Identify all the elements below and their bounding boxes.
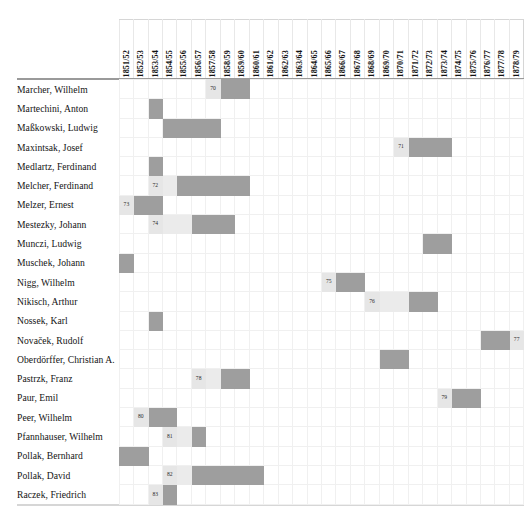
table-row[interactable]: Pollak, David82 [17,465,524,484]
empty-cell [336,311,350,330]
empty-cell [322,80,336,99]
empty-cell [481,80,495,99]
table-row[interactable]: Oberdörffer, Christian A. [17,350,524,369]
empty-cell [509,80,523,99]
empty-cell [119,427,133,446]
empty-cell [293,292,307,311]
empty-cell [466,99,480,118]
empty-cell [293,99,307,118]
empty-cell [350,311,364,330]
empty-cell [379,446,393,465]
empty-cell [466,80,480,99]
empty-cell [249,195,263,214]
empty-cell [119,485,133,504]
empty-cell [481,195,495,214]
empty-cell [264,215,278,234]
table-row[interactable]: Novaček, Rudolf77 [17,330,524,349]
empty-cell [481,253,495,272]
empty-cell [365,195,379,214]
empty-cell [322,118,336,137]
active-cell [163,408,177,427]
active-cell [148,157,162,176]
year-header-1853-54: 1853/54 [148,20,162,79]
year-header-1865-66: 1865/66 [322,20,336,79]
empty-cell [394,408,408,427]
table-row[interactable]: Nossek, Karl [17,311,524,330]
table-row[interactable]: Maßkowski, Ludwig [17,118,524,137]
active-cell [191,118,205,137]
empty-cell [322,195,336,214]
empty-cell [307,80,321,99]
active-cell [249,465,263,484]
empty-cell [235,446,249,465]
empty-cell [466,427,480,446]
table-row[interactable]: Muschek, Johann [17,253,524,272]
empty-cell [394,99,408,118]
empty-cell [481,408,495,427]
empty-cell [379,311,393,330]
empty-cell [336,215,350,234]
table-row[interactable]: Pfannhauser, Wilhelm81 [17,427,524,446]
year-header-label: 1864/65 [308,47,321,78]
empty-cell [336,195,350,214]
table-row[interactable]: Nikisch, Arthur76 [17,292,524,311]
table-row[interactable]: Pastrzk, Franz78 [17,369,524,388]
table-row[interactable]: Paur, Emil79 [17,388,524,407]
empty-cell [379,99,393,118]
empty-cell [408,350,422,369]
empty-cell [437,311,451,330]
year-header-1866-67: 1866/67 [336,20,350,79]
empty-cell [307,99,321,118]
empty-cell [509,427,523,446]
active-cell [119,253,133,272]
active-cell [423,137,437,156]
table-row[interactable]: Melcher, Ferdinand72 [17,176,524,195]
table-row[interactable]: Nigg, Wilhelm75 [17,272,524,291]
table-row[interactable]: Mestezky, Johann74 [17,215,524,234]
empty-cell [394,157,408,176]
empty-cell [278,215,292,234]
row-label: Munczi, Ludwig [17,234,119,253]
year-header-1858-59: 1858/59 [220,20,234,79]
active-cell [495,330,509,349]
empty-cell [249,292,263,311]
active-cell [206,118,220,137]
empty-cell [322,176,336,195]
empty-cell [163,137,177,156]
empty-cell [206,408,220,427]
empty-cell [394,80,408,99]
year-header-1869-70: 1869/70 [379,20,393,79]
row-label: Nigg, Wilhelm [17,272,119,291]
empty-cell [134,388,148,407]
empty-cell [249,253,263,272]
table-row[interactable]: Medlartz, Ferdinand [17,157,524,176]
active-cell [481,330,495,349]
empty-cell [322,137,336,156]
table-row[interactable]: Martechini, Anton [17,99,524,118]
table-row[interactable]: Peer, Wilhelm80 [17,408,524,427]
empty-cell [365,80,379,99]
table-row[interactable]: Melzer, Ernest73 [17,195,524,214]
year-header-label: 1870/71 [394,47,407,78]
table-row[interactable]: Munczi, Ludwig [17,234,524,253]
empty-cell [423,118,437,137]
year-header-1875-76: 1875/76 [466,20,480,79]
empty-cell [191,80,205,99]
empty-cell [495,234,509,253]
empty-cell [220,292,234,311]
table-row[interactable]: Raczek, Friedrich83 [17,485,524,504]
table-row[interactable]: Marcher, Wilhelm70 [17,80,524,99]
table-bottom-rule [17,504,524,506]
empty-cell [134,157,148,176]
table-row[interactable]: Pollak, Bernhard [17,446,524,465]
empty-cell [235,485,249,504]
empty-cell [322,99,336,118]
table-row[interactable]: Maxintsak, Josef71 [17,137,524,156]
partial-cell [163,176,177,195]
empty-cell [350,465,364,484]
footnote-number: 70 [206,86,219,92]
empty-cell [495,176,509,195]
empty-cell [350,80,364,99]
empty-cell [481,137,495,156]
active-cell [148,99,162,118]
